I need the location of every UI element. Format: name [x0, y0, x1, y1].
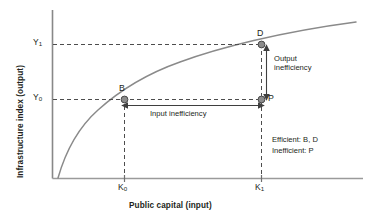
y-axis-title: Infrastructure index (output)	[16, 65, 25, 178]
y-tick-label-y1-sub: 1	[39, 40, 42, 47]
output-inefficiency-label: Output inefficiency	[274, 55, 311, 72]
x-tick-label-k0: K0	[118, 183, 127, 193]
data-point-d[interactable]	[258, 41, 265, 48]
legend-inefficient: Inefficient: P	[272, 147, 314, 156]
x-tick-label-k0-sub: 0	[124, 185, 127, 192]
input-inefficiency-label: Input inefficiency	[150, 110, 206, 119]
y-tick-label-y1: Y1	[33, 38, 42, 48]
legend-efficient: Efficient: B, D	[272, 136, 318, 145]
point-label-d: D	[257, 28, 263, 38]
output-inefficiency-label-line2: inefficiency	[274, 64, 311, 73]
point-label-p: P	[268, 93, 274, 103]
y-tick-label-y0: Y0	[33, 93, 42, 103]
economics-efficiency-chart: Infrastructure index (output) Public cap…	[0, 0, 367, 219]
x-axis-title: Public capital (input)	[129, 201, 212, 210]
y-axis-title-wrap: Infrastructure index (output)	[16, 0, 32, 178]
data-point-p[interactable]	[258, 96, 265, 103]
data-point-b[interactable]	[121, 96, 128, 103]
point-label-b: B	[119, 83, 125, 93]
x-tick-label-k1: K1	[255, 183, 264, 193]
y-tick-label-y0-sub: 0	[39, 95, 42, 102]
x-tick-label-k1-sub: 1	[261, 185, 264, 192]
